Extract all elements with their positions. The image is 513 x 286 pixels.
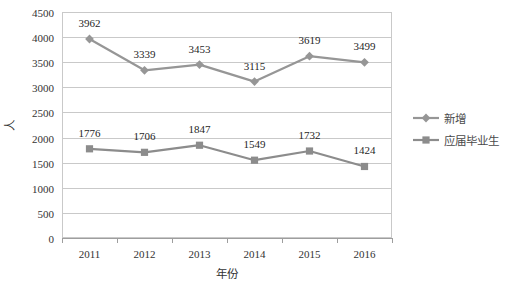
- x-tick-label-2014: 2014: [244, 248, 267, 260]
- legend-label-应届毕业生: 应届毕业生: [444, 134, 499, 148]
- data-label-新增-2014: 3115: [244, 60, 266, 72]
- y-tick-label-4000: 4000: [32, 32, 55, 44]
- legend-marker-应届毕业生: [422, 136, 429, 143]
- legend-label-新增: 新增: [444, 112, 466, 126]
- legend: 新增应届毕业生: [413, 112, 499, 148]
- y-tick-label-0: 0: [49, 233, 55, 245]
- legend-item-应届毕业生[interactable]: 应届毕业生: [413, 134, 499, 148]
- y-tick-label-2500: 2500: [32, 107, 55, 119]
- legend-item-新增[interactable]: 新增: [413, 112, 466, 126]
- chart-container: 0500100015002000250030003500400045002011…: [0, 0, 513, 286]
- data-point-应届毕业生-2011[interactable]: [86, 145, 93, 152]
- data-label-新增-2013: 3453: [189, 43, 212, 55]
- x-tick-label-2012: 2012: [134, 248, 156, 260]
- data-label-新增-2016: 3499: [354, 40, 377, 52]
- x-tick-label-2015: 2015: [299, 248, 322, 260]
- data-label-应届毕业生-2014: 1549: [244, 138, 267, 150]
- data-label-应届毕业生-2016: 1424: [354, 144, 377, 156]
- x-tick-label-2016: 2016: [354, 248, 377, 260]
- y-axis-title: 人: [3, 119, 17, 131]
- y-tick-label-1000: 1000: [32, 183, 55, 195]
- x-tick-label-2011: 2011: [79, 248, 101, 260]
- data-point-应届毕业生-2013[interactable]: [196, 142, 203, 149]
- data-label-应届毕业生-2011: 1776: [79, 127, 102, 139]
- data-label-新增-2012: 3339: [134, 48, 157, 60]
- y-tick-label-3000: 3000: [32, 82, 55, 94]
- plot-background: [62, 12, 392, 238]
- y-tick-label-3500: 3500: [32, 57, 55, 69]
- data-label-应届毕业生-2013: 1847: [189, 123, 212, 135]
- data-label-应届毕业生-2015: 1732: [299, 129, 321, 141]
- x-axis-title: 年份: [216, 267, 239, 281]
- data-point-应届毕业生-2016[interactable]: [361, 163, 368, 170]
- x-axis: [62, 238, 393, 243]
- data-label-应届毕业生-2012: 1706: [134, 130, 157, 142]
- x-axis-tick-labels: 201120122013201420152016: [79, 248, 376, 260]
- y-tick-label-2000: 2000: [32, 133, 55, 145]
- data-point-应届毕业生-2012[interactable]: [141, 149, 148, 156]
- data-point-应届毕业生-2015[interactable]: [306, 147, 313, 154]
- data-label-新增-2011: 3962: [79, 17, 101, 29]
- legend-marker-新增: [422, 114, 431, 123]
- data-point-应届毕业生-2014[interactable]: [251, 157, 258, 164]
- line-chart: 0500100015002000250030003500400045002011…: [0, 0, 513, 286]
- y-tick-label-4500: 4500: [32, 7, 55, 19]
- y-tick-label-1500: 1500: [32, 158, 55, 170]
- data-label-新增-2015: 3619: [299, 34, 322, 46]
- y-axis-tick-labels: 050010001500200025003000350040004500: [32, 7, 55, 245]
- y-tick-label-500: 500: [38, 208, 55, 220]
- x-tick-label-2013: 2013: [189, 248, 212, 260]
